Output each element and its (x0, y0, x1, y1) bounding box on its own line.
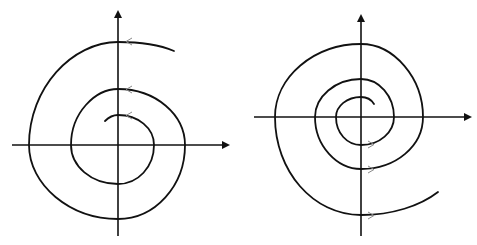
left-phase-portrait (12, 12, 228, 236)
right-phase-portrait (254, 16, 470, 236)
right-spiral-curve (275, 44, 438, 215)
right-direction-arrows (368, 141, 374, 219)
spiral-diagrams (0, 0, 477, 245)
left-spiral-curve (29, 42, 185, 219)
left-direction-arrows (126, 38, 132, 119)
